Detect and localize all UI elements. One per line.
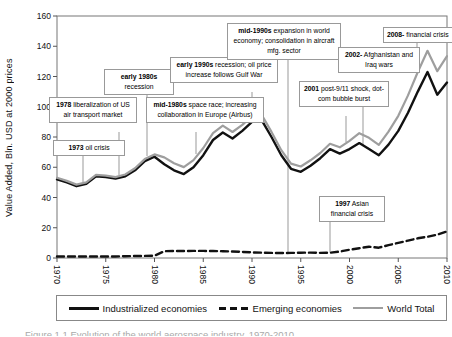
annotation-box: early 1990s recession; oil price increas… [170, 57, 278, 83]
annotation-box: 2001 post-9/11 shock, dot-com bubble bur… [299, 81, 389, 107]
annotation-box: 1973 oil crisis [53, 140, 125, 156]
legend-label: Industrialized economies [103, 303, 208, 314]
legend-line-sample [353, 307, 383, 309]
legend-label: Emerging economies [253, 303, 342, 314]
legend: Industrialized economiesEmerging economi… [56, 295, 447, 321]
annotation-layer: 1973 oil crisis1978 liberalization of US… [0, 0, 452, 337]
legend-item-world: World Total [353, 303, 434, 314]
legend-item-industrialized: Industrialized economies [69, 303, 208, 314]
legend-line-sample [219, 307, 249, 310]
annotation-box: mid-1990s expansion in world economy; co… [227, 23, 341, 60]
annotation-box: 2008- financial crisis [383, 27, 452, 43]
annotation-box: 2002- Afghanistan and Iraq wars [338, 47, 420, 73]
legend-item-emerging: Emerging economies [219, 303, 342, 314]
annotation-box: mid-1980s space race; increasing collabo… [146, 97, 264, 123]
annotation-box: early 1980s recession [104, 69, 174, 95]
partial-caption: Figure 1.1 Evolution of the world aerosp… [25, 329, 425, 336]
legend-line-sample [69, 307, 99, 310]
figure-chart: Value Added, Bln. USD at 2000 prices 020… [0, 0, 452, 337]
annotation-box: 1997 Asian financial crisis [319, 196, 385, 222]
legend-label: World Total [387, 303, 434, 314]
annotation-box: 1978 liberalization of US air transport … [49, 97, 137, 123]
